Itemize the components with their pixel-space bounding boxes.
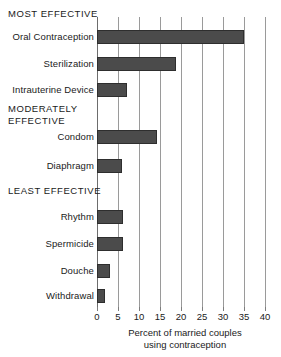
bar-label-withdrawal: Withdrawal bbox=[0, 285, 94, 307]
bar-label-condom: Condom bbox=[0, 126, 94, 148]
bar-sterilization bbox=[97, 57, 176, 71]
bar-row-withdrawal: Withdrawal bbox=[0, 285, 281, 307]
bar-label-intrauterine-device: Intrauterine Device bbox=[0, 79, 94, 101]
bar-label-sterilization: Sterilization bbox=[0, 53, 94, 75]
bar-label-douche: Douche bbox=[0, 260, 94, 282]
bar-row-oral-contraception: Oral Contraception bbox=[0, 26, 281, 48]
bar-douche bbox=[97, 264, 110, 278]
group-heading-most-effective: MOST EFFECTIVE bbox=[8, 8, 98, 20]
bar-row-sterilization: Sterilization bbox=[0, 53, 281, 75]
bar-row-condom: Condom bbox=[0, 126, 281, 148]
bar-label-rhythm: Rhythm bbox=[0, 206, 94, 228]
bar-diaphragm bbox=[97, 159, 122, 173]
group-heading-moderately-effective: MODERATELY EFFECTIVE bbox=[8, 103, 78, 127]
bar-label-diaphragm: Diaphragm bbox=[0, 155, 94, 177]
bar-condom bbox=[97, 130, 157, 144]
bar-row-rhythm: Rhythm bbox=[0, 206, 281, 228]
bar-label-spermicide: Spermicide bbox=[0, 233, 94, 255]
bar-chart: MOST EFFECTIVE Oral Contraception Steril… bbox=[0, 0, 281, 357]
bar-row-intrauterine-device: Intrauterine Device bbox=[0, 79, 281, 101]
bar-row-diaphragm: Diaphragm bbox=[0, 155, 281, 177]
x-axis-title: Percent of married couples using contrac… bbox=[97, 327, 273, 350]
bar-oral-contraception bbox=[97, 30, 244, 44]
bar-row-spermicide: Spermicide bbox=[0, 233, 281, 255]
group-heading-least-effective: LEAST EFFECTIVE bbox=[8, 185, 101, 197]
bar-label-oral-contraception: Oral Contraception bbox=[0, 26, 94, 48]
bar-withdrawal bbox=[97, 289, 105, 303]
x-axis-title-line1: Percent of married couples bbox=[97, 327, 273, 339]
x-axis-title-line2: using contraception bbox=[97, 339, 273, 351]
bar-spermicide bbox=[97, 237, 123, 251]
bar-intrauterine-device bbox=[97, 83, 127, 97]
xtick-label-40: 40 bbox=[253, 311, 277, 323]
bar-rhythm bbox=[97, 210, 123, 224]
bar-row-douche: Douche bbox=[0, 260, 281, 282]
